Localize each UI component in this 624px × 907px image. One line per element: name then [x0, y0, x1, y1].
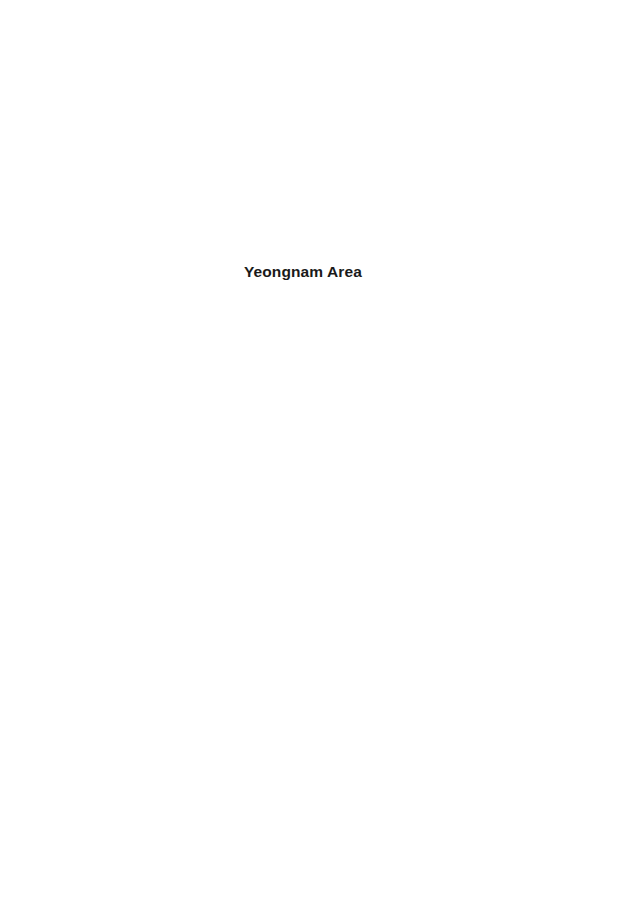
document-page: Yeongnam Area	[0, 0, 624, 907]
section-title: Yeongnam Area	[244, 262, 362, 282]
